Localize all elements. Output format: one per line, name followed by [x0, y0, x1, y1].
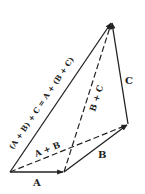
- vector-b-arrow: [64, 125, 127, 172]
- label-a: A: [32, 177, 41, 188]
- label-c: C: [125, 75, 133, 86]
- label-a-plus-b: A + B: [32, 140, 62, 160]
- vector-a-plus-b-arrow: [10, 125, 127, 172]
- label-sum: (A + B) + C = A + (B + C): [7, 55, 76, 151]
- label-b-plus-c: B + C: [87, 84, 105, 113]
- vector-diagram: A B C A + B B + C (A + B) + C = A + (B +…: [0, 0, 145, 194]
- vector-c-arrow: [112, 23, 128, 124]
- label-b: B: [98, 149, 106, 160]
